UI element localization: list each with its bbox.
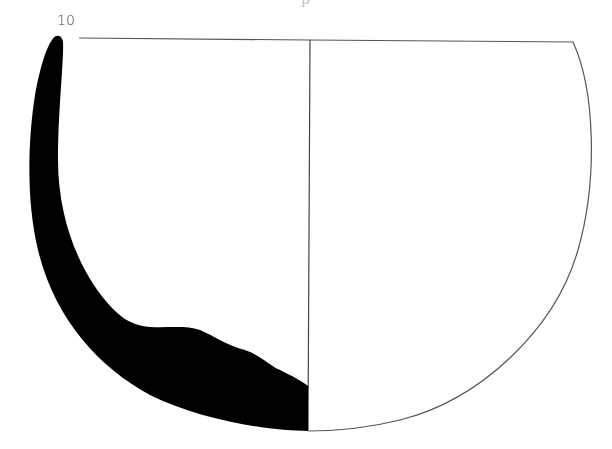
centre-axis-line	[308, 40, 310, 430]
vessel-profile-drawing	[0, 0, 612, 449]
section-profile-fill	[29, 36, 308, 431]
exterior-outline	[308, 42, 591, 431]
rim-line	[79, 38, 573, 42]
